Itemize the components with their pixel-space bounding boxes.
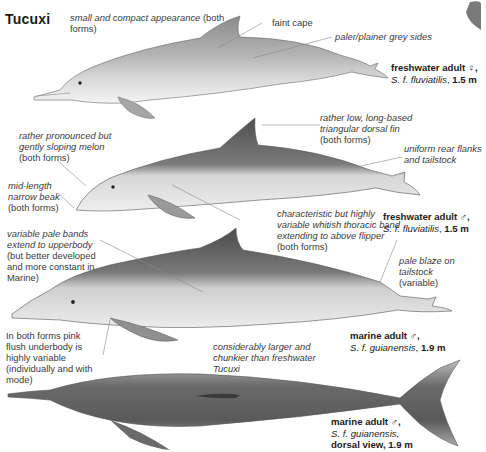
annotation-paler-sides: paler/plainer grey sides (335, 31, 432, 42)
annotation-pale-bands-italic: variable pale bands extend to upperbody (7, 228, 92, 250)
annotation-melon-italic: rather pronounced but gently sloping mel… (19, 130, 111, 152)
caption-form: freshwater adult ♀, (391, 62, 478, 73)
annotation-pale-blaze: pale blaze on tailstock(variable) (399, 255, 484, 288)
annotation-thoracic-italic: characteristic but highly variable whiti… (277, 208, 400, 241)
caption-species: S. f. guianensis, (331, 428, 399, 439)
annotation-dorsal-fin-rest: (both forms) (320, 134, 371, 145)
caption-form: marine adult ♂, (350, 330, 420, 341)
annotation-pale-blaze-rest: (variable) (399, 277, 438, 288)
caption-freshwater-female: freshwater adult ♀,S. f. fluviatilis, 1.… (391, 62, 478, 85)
annotation-faint-cape: faint cape (272, 17, 313, 28)
page-title: Tucuxi (5, 11, 50, 27)
caption-form: marine adult ♂, (331, 416, 401, 427)
caption-species: S. f. fluviatilis (391, 74, 447, 85)
annotation-melon: rather pronounced but gently sloping mel… (19, 130, 134, 163)
caption-freshwater-male: freshwater adult ♂,S. f. fluviatilis, 1.… (383, 211, 470, 234)
annotation-beak: mid-length narrow beak(both forms) (8, 180, 68, 213)
annotation-pink-flush: In both forms pink flush underbody is hi… (6, 330, 101, 385)
annotation-dorsal-fin: rather low, long-based triangular dorsal… (320, 112, 440, 145)
caption-size: 1.5 m (452, 74, 477, 85)
annotation-compact-italic: small and compact appearance (70, 12, 200, 23)
annotation-pale-blaze-italic: pale blaze on tailstock (399, 255, 455, 277)
annotation-thoracic-rest: (both forms) (277, 241, 328, 252)
annotation-rear-flanks: uniform rear flanks and tailstock (404, 143, 486, 165)
caption-species: S. f. fluviatilis (383, 223, 439, 234)
annotation-melon-rest: (both forms) (19, 152, 70, 163)
annotation-pale-bands: variable pale bands extend to upperbody … (7, 228, 107, 283)
caption-size: 1.5 m (444, 223, 469, 234)
adjacent-figure-fragment (466, 1, 481, 30)
annotation-beak-rest: (both forms) (8, 202, 59, 213)
caption-size: dorsal view, 1.9 m (331, 439, 413, 450)
annotation-dorsal-fin-italic: rather low, long-based triangular dorsal… (320, 112, 412, 134)
annotation-pale-bands-rest: (but better developed and more constant … (7, 250, 96, 283)
caption-marine-dorsal: marine adult ♂,S. f. guianensis,dorsal v… (331, 416, 413, 451)
annotation-beak-italic: mid-length narrow beak (8, 180, 60, 202)
annotation-compact: small and compact appearance (both forms… (70, 12, 230, 34)
caption-marine-male: marine adult ♂,S. f. guianensis, 1.9 m (350, 330, 446, 353)
caption-form: freshwater adult ♂, (383, 211, 470, 222)
annotation-larger: considerably larger and chunkier than fr… (213, 341, 331, 374)
caption-species: S. f. guianensis (350, 342, 416, 353)
caption-size: 1.9 m (421, 342, 446, 353)
